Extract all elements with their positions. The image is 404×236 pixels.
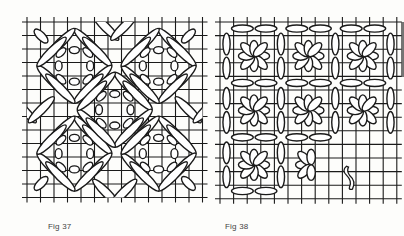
stitch-diagram-diamond: [0, 0, 210, 215]
stitch-diagram-flower: [204, 0, 404, 215]
figure-37-caption: Fig 37: [48, 222, 71, 231]
figure-38-diagram: [204, 0, 404, 215]
figure-37-diagram: [0, 0, 210, 215]
figure-38-caption: Fig 38: [225, 222, 248, 231]
